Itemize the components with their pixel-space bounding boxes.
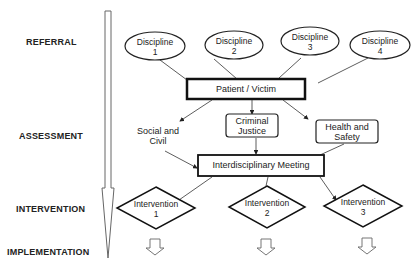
- stage-label-assessment: ASSESSMENT: [19, 131, 83, 141]
- stage-label-referral: REFERRAL: [26, 37, 77, 47]
- discipline-1-label: Discipline 1: [125, 37, 185, 57]
- discipline-2-number: 2: [205, 46, 263, 56]
- discipline-2-label: Discipline 2: [205, 36, 263, 56]
- intervention-2-label: Intervention 2: [232, 198, 302, 218]
- criminal-justice-label: Criminal Justice: [226, 116, 278, 136]
- process-flow-arrow-icon: [102, 11, 114, 258]
- criminal-justice-line1: Criminal: [226, 116, 278, 126]
- intervention-1-title: Intervention: [121, 199, 191, 209]
- patient-victim-label: Patient / Victim: [187, 84, 305, 94]
- multidisciplinary-process-diagram: REFERRAL ASSESSMENT INTERVENTION IMPLEME…: [0, 0, 420, 267]
- stage-label-intervention: INTERVENTION: [16, 204, 85, 214]
- discipline-3-number: 3: [281, 42, 339, 52]
- intervention-3-label: Intervention 3: [328, 197, 398, 217]
- criminal-justice-line2: Justice: [226, 126, 278, 136]
- intervention-2-number: 2: [232, 208, 302, 218]
- intervention-2-title: Intervention: [232, 198, 302, 208]
- implementation-arrow-2-icon: [257, 239, 275, 255]
- discipline-3-title: Discipline: [281, 32, 339, 42]
- intervention-1-number: 1: [121, 209, 191, 219]
- discipline-4-title: Discipline: [350, 36, 410, 46]
- discipline-3-label: Discipline 3: [281, 32, 339, 52]
- health-safety-label: Health and Safety: [316, 122, 378, 142]
- health-safety-line1: Health and: [316, 122, 378, 132]
- health-safety-line2: Safety: [316, 132, 378, 142]
- social-civil-line2: Civil: [128, 136, 188, 146]
- intervention-1-label: Intervention 1: [121, 199, 191, 219]
- discipline-4-label: Discipline 4: [350, 36, 410, 56]
- discipline-2-title: Discipline: [205, 36, 263, 46]
- stage-label-implementation: IMPLEMENTATION: [7, 247, 89, 257]
- implementation-arrow-3-icon: [358, 238, 376, 254]
- social-civil-line1: Social and: [128, 126, 188, 136]
- discipline-1-number: 1: [125, 47, 185, 57]
- discipline-1-title: Discipline: [125, 37, 185, 47]
- discipline-4-number: 4: [350, 46, 410, 56]
- social-civil-label: Social and Civil: [128, 126, 188, 146]
- intervention-3-number: 3: [328, 207, 398, 217]
- implementation-arrow-1-icon: [146, 239, 164, 255]
- interdisciplinary-meeting-label: Interdisciplinary Meeting: [198, 160, 324, 170]
- intervention-3-title: Intervention: [328, 197, 398, 207]
